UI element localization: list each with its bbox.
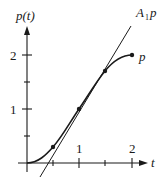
svg-text:A: A: [135, 5, 144, 20]
y-axis-arrow-icon: [24, 26, 30, 35]
x-tick-label-2: 2: [129, 141, 136, 156]
tangent-line-A1p: [40, 26, 131, 177]
curve-markers: [51, 53, 134, 149]
x-axis-arrow-icon: [139, 160, 148, 166]
x-axis-label: t: [151, 155, 155, 170]
line-A1p-label: A 1 p: [135, 5, 157, 22]
y-axis-label: p(t): [15, 8, 35, 23]
curve-p-label: p: [138, 49, 146, 64]
y-tick-label-1: 1: [10, 102, 17, 117]
y-tick-label-2: 2: [10, 48, 17, 63]
figure: 1 2 1 2 p(t) t p A 1 p: [0, 0, 163, 178]
x-tick-label-1: 1: [76, 141, 83, 156]
svg-text:p: p: [149, 5, 157, 20]
svg-text:1: 1: [145, 13, 149, 22]
